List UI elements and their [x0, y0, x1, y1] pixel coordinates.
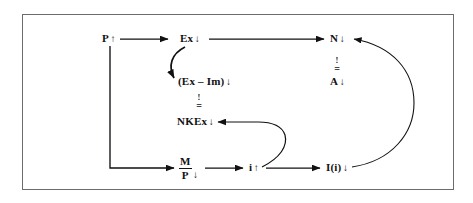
node-aggregate-demand-arrow: ↓: [338, 76, 345, 87]
node-employment-arrow: ↓: [338, 33, 345, 44]
node-net-exports: (Ex – Im)↓: [178, 76, 231, 87]
node-interest-rate: i↑: [249, 162, 259, 173]
identity-symbol-left: ! =: [192, 93, 206, 109]
fraction-denominator: P: [179, 169, 192, 181]
node-net-capital-exports: NKEx↓: [177, 116, 214, 127]
fraction-numerator: M: [179, 156, 192, 169]
node-interest-rate-arrow: ↑: [252, 162, 259, 173]
identity-left-equals: =: [192, 102, 206, 109]
node-price-level-arrow: ↑: [109, 33, 116, 44]
node-net-capital-exports-arrow: ↓: [207, 116, 214, 127]
diagram-frame: [22, 14, 454, 190]
node-aggregate-demand: A↓: [330, 76, 345, 87]
node-employment: N↓: [330, 33, 345, 44]
identity-symbol-right: ! =: [330, 56, 344, 72]
node-aggregate-demand-label: A: [330, 75, 338, 87]
node-net-exports-arrow: ↓: [224, 76, 231, 87]
node-real-money-balances: M P ↓: [179, 156, 198, 181]
node-price-level-label: P: [102, 32, 109, 44]
real-money-balances-fraction: M P: [179, 156, 192, 181]
node-employment-label: N: [330, 32, 338, 44]
node-net-exports-label: (Ex – Im): [178, 75, 224, 87]
node-price-level: P↑: [102, 33, 116, 44]
flow-diagram-figure: P↑ Ex↓ (Ex – Im)↓ ! = NKEx↓ M P ↓ i↑ I(i…: [0, 0, 473, 203]
node-exports-label: Ex: [180, 32, 193, 44]
node-investment-arrow: ↓: [341, 162, 348, 173]
node-exports: Ex↓: [180, 33, 200, 44]
identity-right-equals: =: [330, 65, 344, 72]
node-exports-arrow: ↓: [193, 33, 200, 44]
node-investment-label: I(i): [326, 161, 341, 173]
node-real-money-balances-arrow: ↓: [192, 170, 199, 181]
node-net-capital-exports-label: NKEx: [177, 115, 207, 127]
node-investment: I(i)↓: [326, 162, 348, 173]
